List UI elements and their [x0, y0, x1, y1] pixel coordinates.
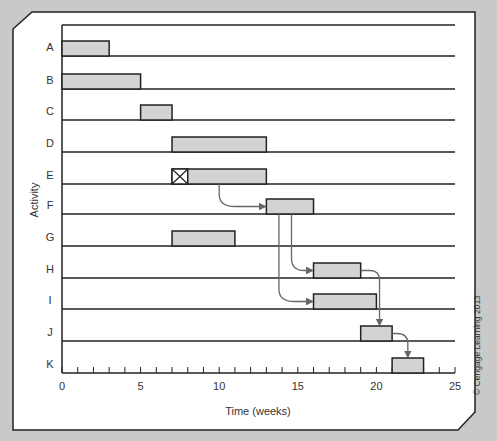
- x-tick-label: 0: [59, 380, 65, 392]
- task-bar: [314, 294, 377, 309]
- x-tick-label: 5: [138, 380, 144, 392]
- x-tick-label: 25: [449, 380, 461, 392]
- task-bar: [266, 199, 313, 214]
- x-tick-label: 10: [213, 380, 225, 392]
- activity-label: B: [46, 74, 53, 86]
- activity-label: C: [46, 105, 54, 117]
- x-tick-label: 15: [292, 380, 304, 392]
- gantt-chart: ABCDEFGHIJK0510152025 Activity Time (wee…: [0, 0, 497, 441]
- task-bar: [141, 105, 172, 120]
- activity-label: H: [46, 263, 54, 275]
- task-bar: [62, 74, 141, 89]
- activity-label: K: [46, 358, 54, 370]
- activity-label: F: [47, 199, 54, 211]
- task-bar: [361, 326, 392, 341]
- activity-label: J: [47, 326, 53, 338]
- task-bar: [392, 358, 423, 373]
- activity-label: G: [46, 231, 55, 243]
- activity-label: A: [46, 41, 54, 53]
- task-bar: [314, 263, 361, 278]
- activity-label: I: [48, 294, 51, 306]
- activity-label: E: [46, 169, 53, 181]
- task-bar: [172, 137, 266, 152]
- x-tick-label: 20: [370, 380, 382, 392]
- copyright-notice: © Cengage Learning 2013: [472, 295, 482, 395]
- task-bar: [172, 231, 235, 246]
- activity-label: D: [46, 137, 54, 149]
- x-axis-label: Time (weeks): [225, 405, 291, 417]
- task-bar: [62, 41, 109, 56]
- y-axis-label: Activity: [28, 182, 40, 217]
